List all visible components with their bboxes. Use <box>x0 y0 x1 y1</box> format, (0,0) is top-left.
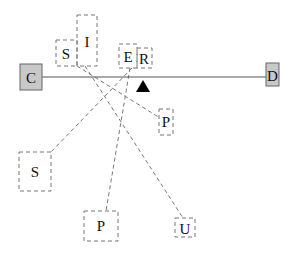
label-box-s1: S <box>56 40 77 66</box>
label-box-i: I <box>77 15 97 66</box>
connector-line <box>51 68 132 152</box>
anchor-label: D <box>267 68 278 84</box>
box-label: P <box>97 218 105 234</box>
label-box-u: U <box>175 218 195 237</box>
box-label: S <box>31 164 39 180</box>
fulcrum-triangle-icon <box>136 80 150 92</box>
box-label: E <box>123 49 132 65</box>
label-box-p1: P <box>159 109 173 135</box>
anchor-node-d: D <box>266 63 279 86</box>
box-label: S <box>62 46 70 62</box>
dashed-connectors <box>51 66 183 218</box>
label-box-r: R <box>137 48 152 68</box>
connector-line <box>85 66 183 218</box>
box-label: P <box>162 114 170 130</box>
anchor-node-c: C <box>20 64 42 90</box>
anchor-label: C <box>26 70 36 86</box>
lever-diagram: CD SIERPSPU <box>0 0 296 259</box>
connector-line <box>106 68 130 211</box>
box-label: U <box>180 221 191 237</box>
box-label: R <box>139 51 149 67</box>
label-box-p2: P <box>84 211 118 241</box>
label-box-s2: S <box>19 152 51 191</box>
box-label: I <box>85 34 90 50</box>
label-box-e: E <box>119 44 137 68</box>
